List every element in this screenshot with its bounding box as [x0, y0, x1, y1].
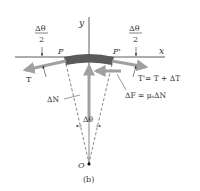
point-p-label: P	[57, 47, 64, 56]
tension-left-arrow	[25, 61, 66, 70]
normal-label: ΔN	[47, 95, 59, 104]
center-angle-label: Δθ	[83, 115, 93, 124]
normal-leader	[64, 95, 80, 99]
tension-right-label: T'= T + ΔT	[138, 74, 180, 83]
figure-caption: (b)	[83, 175, 94, 184]
half-angle-left-den: 2	[39, 35, 44, 44]
angle-pointer-right-bottom	[133, 66, 136, 77]
point-p-prime-label: P'	[112, 47, 121, 56]
angle-pointer-left-bottom	[43, 66, 46, 77]
tension-left-label: T	[26, 75, 32, 84]
x-axis-label: x	[159, 46, 164, 56]
half-angle-right-num: Δθ	[129, 24, 140, 33]
origin-point	[87, 162, 90, 165]
half-angle-right-den: 2	[133, 35, 138, 44]
half-angle-left-num: Δθ	[35, 24, 46, 33]
tension-right-arrow	[112, 61, 146, 67]
y-axis-label: y	[78, 18, 85, 28]
friction-leader	[117, 74, 126, 90]
radius-line-left	[66, 64, 89, 163]
origin-label: O	[78, 161, 85, 170]
belt-friction-diagram: y x Δθ 2 Δθ 2 P P' T T'= T + ΔT ΔF = μₛΔ…	[0, 0, 200, 191]
radius-line-right	[89, 64, 112, 163]
friction-label: ΔF = μₛΔN	[125, 91, 166, 100]
